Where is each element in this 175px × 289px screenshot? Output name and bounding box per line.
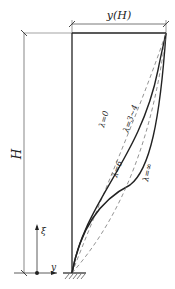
label-lambda-0: λ=0 bbox=[97, 110, 111, 130]
deflection-diagram: y(H) H λ=0 λ=3~4 λ=6 λ=∞ ξ y bbox=[0, 0, 175, 289]
y-axis-label: y bbox=[50, 262, 57, 272]
height-label: H bbox=[10, 148, 24, 160]
label-lambda-inf: λ=∞ bbox=[141, 163, 154, 184]
curve-lambda-0 bbox=[72, 33, 166, 273]
top-deflection-label: y(H) bbox=[106, 9, 131, 22]
ground-hatch bbox=[65, 274, 85, 279]
xi-axis-arrow-icon bbox=[35, 224, 39, 230]
label-lambda-3-4: λ=3~4 bbox=[121, 104, 140, 135]
xi-axis-label: ξ bbox=[41, 226, 47, 236]
label-lambda-6: λ=6 bbox=[110, 160, 124, 180]
origin-dot bbox=[35, 271, 39, 275]
